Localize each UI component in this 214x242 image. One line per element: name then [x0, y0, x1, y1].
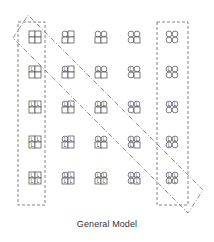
circle-element [172, 72, 178, 78]
right-column-box [157, 22, 188, 205]
cell-r2-c4: LL [166, 101, 178, 113]
square-element [101, 72, 107, 78]
square-element [134, 107, 140, 113]
circle-element [128, 37, 134, 43]
cell-r2-c1: LL [62, 101, 74, 113]
cell-r0-c3 [128, 31, 140, 43]
cell-r4-c3: LLLL [128, 172, 140, 184]
square-element [68, 107, 74, 113]
cell-r3-c3: LLL [128, 136, 140, 148]
circle-element [172, 37, 178, 43]
cell-r0-c0 [29, 31, 41, 43]
cell-r3-c2: LLL [95, 136, 107, 148]
square-element [101, 142, 107, 148]
square-element [68, 72, 74, 78]
square-element [35, 72, 41, 78]
square-element [95, 107, 101, 113]
square-element [35, 142, 41, 148]
square-element [68, 31, 74, 37]
circle-element [166, 72, 172, 78]
square-element [62, 37, 68, 43]
cell-r1-c1: L [62, 66, 74, 78]
cell-r3-c1: LLL [62, 136, 74, 148]
square-element [35, 107, 41, 113]
cell-r1-c4: L [166, 66, 178, 78]
circle-element [62, 31, 68, 37]
square-element [29, 31, 35, 37]
square-element [35, 31, 41, 37]
circle-element [128, 107, 134, 113]
cell-r1-c3: L [128, 66, 140, 78]
square-element [68, 66, 74, 72]
square-element [68, 37, 74, 43]
cell-r1-c0: L [29, 66, 41, 78]
cell-r1-c2: L [95, 66, 107, 78]
square-element [101, 37, 107, 43]
square-element [62, 72, 68, 78]
diagram-caption: General Model [0, 219, 214, 229]
cell-r2-c2: LL [95, 101, 107, 113]
circle-element [172, 107, 178, 113]
cell-r2-c0: LL [29, 101, 41, 113]
circle-element [172, 66, 178, 72]
square-element [35, 66, 41, 72]
square-element [101, 107, 107, 113]
square-element [134, 72, 140, 78]
circle-element [134, 66, 140, 72]
cell-r0-c2 [95, 31, 107, 43]
circle-element [134, 31, 140, 37]
square-element [95, 72, 101, 78]
square-element [62, 107, 68, 113]
cell-r4-c1: LLLL [62, 172, 74, 184]
circle-element [166, 107, 172, 113]
circle-element [101, 66, 107, 72]
circle-element [172, 142, 178, 148]
cell-r3-c0: LLL [29, 136, 41, 148]
cell-grid: LLLLLLLLLLLLLLLLLLLLLLLLLLLLLLLLLLLLLLLL… [29, 31, 178, 184]
cell-r4-c4: LLLL [166, 172, 178, 184]
circle-element [101, 31, 107, 37]
cell-r3-c4: LLL [166, 136, 178, 148]
cell-r0-c4 [166, 31, 178, 43]
cell-r4-c0: LLLL [29, 172, 41, 184]
circle-element [128, 31, 134, 37]
circle-element [166, 31, 172, 37]
circle-element [128, 72, 134, 78]
circle-element [95, 31, 101, 37]
circle-element [172, 31, 178, 37]
square-element [35, 37, 41, 43]
square-element [68, 142, 74, 148]
square-element [29, 72, 35, 78]
cell-r4-c2: LLLL [95, 172, 107, 184]
cell-r0-c1 [62, 31, 74, 43]
general-model-diagram: LLLLLLLLLLLLLLLLLLLLLLLLLLLLLLLLLLLLLLLL… [0, 0, 214, 242]
square-element [134, 37, 140, 43]
square-element [134, 142, 140, 148]
square-element [29, 107, 35, 113]
square-element [29, 37, 35, 43]
square-element [95, 37, 101, 43]
cell-r2-c3: LL [128, 101, 140, 113]
circle-element [166, 37, 172, 43]
